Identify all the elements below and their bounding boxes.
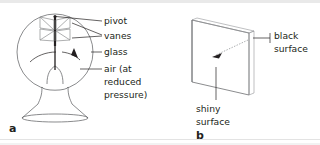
label-shiny-line1: shiny [196, 103, 221, 114]
vane-lower-left-diagonal [40, 31, 54, 40]
label-vanes: vanes [104, 30, 132, 41]
leader-vanes-lower [72, 36, 102, 38]
label-air-line3: pressure) [104, 89, 147, 100]
label-glass: glass [104, 46, 128, 57]
radiation-ray-dotted [216, 40, 248, 55]
label-air-line2: reduced [104, 76, 141, 87]
leader-vanes-upper [72, 23, 102, 35]
label-shiny-line2: surface [196, 116, 230, 127]
panel-a-group: pivot vanes glass air (at reduced pressu… [9, 14, 147, 135]
vane-lower-left [40, 29, 54, 41]
vane-lower-right-diagonal [56, 31, 70, 40]
panel-b-letter: b [196, 129, 204, 142]
stem-fill [22, 87, 88, 118]
label-air-line1: air (at [104, 63, 132, 74]
rotation-arc-left [30, 52, 56, 62]
radiation-arrowhead [212, 53, 222, 59]
rotation-arrowhead [71, 48, 78, 58]
diagram-canvas: pivot vanes glass air (at reduced pressu… [0, 0, 320, 145]
figure-root: pivot vanes glass air (at reduced pressu… [0, 0, 320, 145]
plate-right-edge [249, 31, 254, 95]
vane-lower-right [56, 29, 70, 41]
label-pivot: pivot [104, 15, 127, 26]
label-black-line1: black [274, 30, 299, 41]
label-black-line2: surface [274, 43, 308, 54]
panel-b-group: black surface shiny surface b [192, 18, 308, 142]
rotation-arc-right [62, 52, 80, 60]
plate-top-edge [192, 18, 254, 33]
panel-a-letter: a [9, 122, 16, 135]
